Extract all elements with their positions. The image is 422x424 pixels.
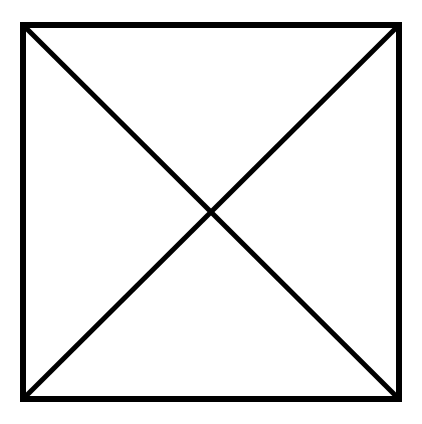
square-diagram xyxy=(0,0,422,424)
